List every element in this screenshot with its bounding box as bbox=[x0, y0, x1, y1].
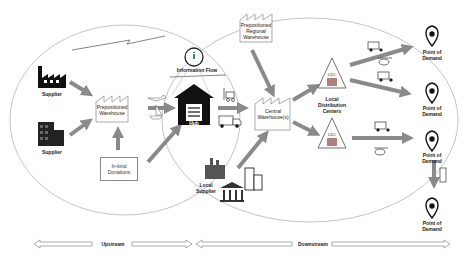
supplier-top-label: Supplier bbox=[28, 91, 76, 97]
prepositioned-warehouse-label: Prepositioned Warehouse bbox=[94, 104, 130, 116]
supplier-bottom-label: Supplier bbox=[28, 149, 76, 155]
city-buildings-icon bbox=[245, 168, 262, 190]
local-distribution-centers-label: Local Distribution Centers bbox=[314, 96, 350, 114]
ldc-top-label: LDC bbox=[322, 72, 342, 78]
regional-warehouse-label: Prepositioned Regional Warehouse bbox=[238, 22, 274, 40]
downstream-arrow-right bbox=[332, 240, 450, 248]
diagram-canvas bbox=[0, 0, 464, 268]
ldc-bottom-label: LDC bbox=[322, 132, 342, 138]
inkind-donations-box: In-kind Donations bbox=[100, 157, 138, 181]
information-flow-label: Information Flow bbox=[174, 67, 220, 73]
bank-icon bbox=[220, 182, 244, 202]
pod-3-label: Point of Demand bbox=[414, 152, 450, 164]
office-building-icon bbox=[38, 122, 64, 146]
upstream-label: Upstream bbox=[96, 241, 130, 247]
central-warehouse-label: Central Warehouse(s) bbox=[254, 108, 292, 120]
plane-icon bbox=[148, 95, 166, 101]
upstream-arrow-left bbox=[34, 240, 92, 248]
hub-label: Hub bbox=[184, 120, 204, 126]
pod-1-label: Point of Demand bbox=[414, 49, 450, 61]
upstream-arrow-right bbox=[132, 240, 192, 248]
pod-2-label: Point of Demand bbox=[414, 105, 450, 117]
local-supplier-label: Local Supplier bbox=[190, 182, 222, 194]
downstream-arrow-left bbox=[196, 240, 292, 248]
forklift-icon bbox=[224, 88, 235, 102]
truck-icon bbox=[219, 116, 241, 128]
factory-icon bbox=[38, 66, 66, 88]
downstream-label: Downstream bbox=[294, 241, 332, 247]
pod-4-label: Point of Demand bbox=[414, 220, 450, 232]
local-factory-icon bbox=[205, 158, 225, 179]
info-letter: i bbox=[188, 51, 200, 61]
